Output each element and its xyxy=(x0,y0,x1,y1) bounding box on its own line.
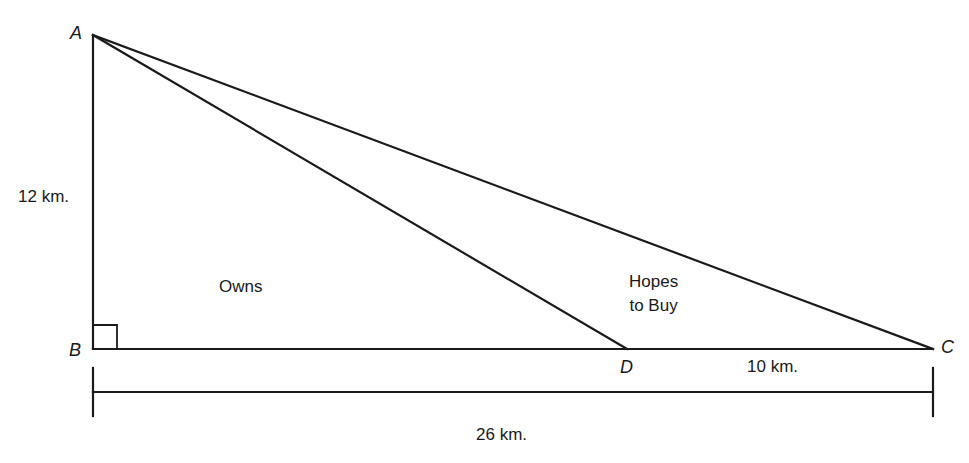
segment-ad xyxy=(93,35,627,349)
region-label-hopes-line1: Hopes xyxy=(629,270,678,294)
point-label-c: C xyxy=(941,337,954,357)
region-label-hopes-to-buy: Hopes to Buy xyxy=(629,270,678,318)
measurement-bc: 26 km. xyxy=(476,425,527,445)
measurement-dc: 10 km. xyxy=(747,357,798,377)
region-label-hopes-line2: to Buy xyxy=(629,294,678,318)
right-angle-marker xyxy=(93,325,117,349)
point-label-a: A xyxy=(70,23,82,43)
point-label-d: D xyxy=(620,357,633,377)
point-label-b: B xyxy=(69,340,81,360)
measurement-ab: 12 km. xyxy=(18,187,69,207)
segment-ac xyxy=(93,35,933,349)
triangle-diagram xyxy=(0,0,969,463)
region-label-owns: Owns xyxy=(219,275,262,299)
